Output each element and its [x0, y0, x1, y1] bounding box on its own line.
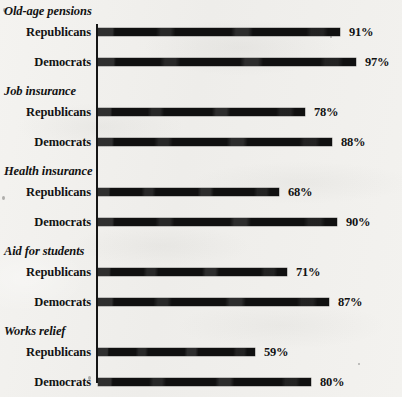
row-label-health-insurance-republicans: Republicans: [26, 185, 91, 200]
row-label-old-age-pensions-democrats: Democrats: [34, 55, 91, 70]
bar-old-age-pensions-republicans: [98, 28, 340, 36]
bar-value-aid-for-students-republicans: 71%: [296, 265, 320, 280]
bar-aid-for-students-republicans: [98, 268, 287, 276]
bar-value-job-insurance-democrats: 88%: [341, 135, 365, 150]
row-label-aid-for-students-republicans: Republicans: [26, 265, 91, 280]
bar-value-old-age-pensions-democrats: 97%: [365, 55, 389, 70]
row-label-aid-for-students-democrats: Democrats: [34, 295, 91, 310]
group-header-old-age-pensions: Old-age pensions: [4, 4, 92, 19]
row-label-job-insurance-republicans: Republicans: [26, 105, 91, 120]
bar-works-relief-democrats: [98, 378, 311, 386]
row-label-works-relief-republicans: Republicans: [26, 345, 91, 360]
bar-chart: Old-age pensionsRepublicans91%Democrats9…: [0, 0, 402, 397]
bar-value-works-relief-republicans: 59%: [264, 345, 288, 360]
bar-value-health-insurance-democrats: 90%: [346, 215, 370, 230]
bar-health-insurance-republicans: [98, 188, 279, 196]
bar-aid-for-students-democrats: [98, 298, 329, 306]
group-header-aid-for-students: Aid for students: [4, 244, 84, 259]
row-label-health-insurance-democrats: Democrats: [34, 215, 91, 230]
row-label-old-age-pensions-republicans: Republicans: [26, 25, 91, 40]
bar-value-works-relief-democrats: 80%: [320, 375, 344, 390]
bar-value-job-insurance-republicans: 78%: [314, 105, 338, 120]
bar-works-relief-republicans: [98, 348, 255, 356]
bar-value-old-age-pensions-republicans: 91%: [349, 25, 373, 40]
row-label-works-relief-democrats: Democrats: [34, 375, 91, 390]
bar-old-age-pensions-democrats: [98, 58, 356, 66]
category-axis-line: [96, 24, 98, 383]
row-label-job-insurance-democrats: Democrats: [34, 135, 91, 150]
group-header-job-insurance: Job insurance: [4, 84, 76, 99]
group-header-health-insurance: Health insurance: [4, 164, 92, 179]
bar-job-insurance-democrats: [98, 138, 332, 146]
group-header-works-relief: Works relief: [4, 324, 65, 339]
bar-job-insurance-republicans: [98, 108, 305, 116]
bar-value-health-insurance-republicans: 68%: [288, 185, 312, 200]
bar-health-insurance-democrats: [98, 218, 337, 226]
bar-value-aid-for-students-democrats: 87%: [338, 295, 362, 310]
